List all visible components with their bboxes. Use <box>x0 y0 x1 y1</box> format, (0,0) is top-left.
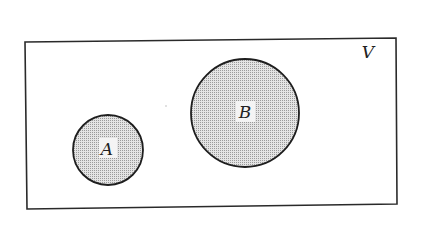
universe-label: V <box>362 42 376 62</box>
set-b-label: B <box>238 102 252 122</box>
scan-speck <box>165 105 167 107</box>
venn-diagram: A B V <box>0 0 427 226</box>
set-a-label: A <box>99 139 113 159</box>
